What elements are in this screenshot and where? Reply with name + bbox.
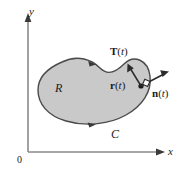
- x-axis-label: x: [168, 146, 173, 157]
- figure-container: y x 0 R C T(t) r(t) n(t): [0, 0, 186, 178]
- tangent-paren-close: ): [124, 45, 128, 57]
- origin-label: 0: [17, 155, 22, 165]
- x-axis-arrowhead: [156, 149, 165, 156]
- curve-label: C: [111, 128, 119, 140]
- y-axis-label: y: [29, 6, 34, 17]
- region-label: R: [55, 82, 62, 94]
- position-vector-label: r(t): [110, 80, 125, 91]
- normal-paren-close: ): [165, 87, 169, 99]
- tangent-vector-label: T(t): [110, 46, 128, 57]
- position-paren-close: ): [122, 79, 126, 91]
- normal-vector-label: n(t): [152, 88, 169, 99]
